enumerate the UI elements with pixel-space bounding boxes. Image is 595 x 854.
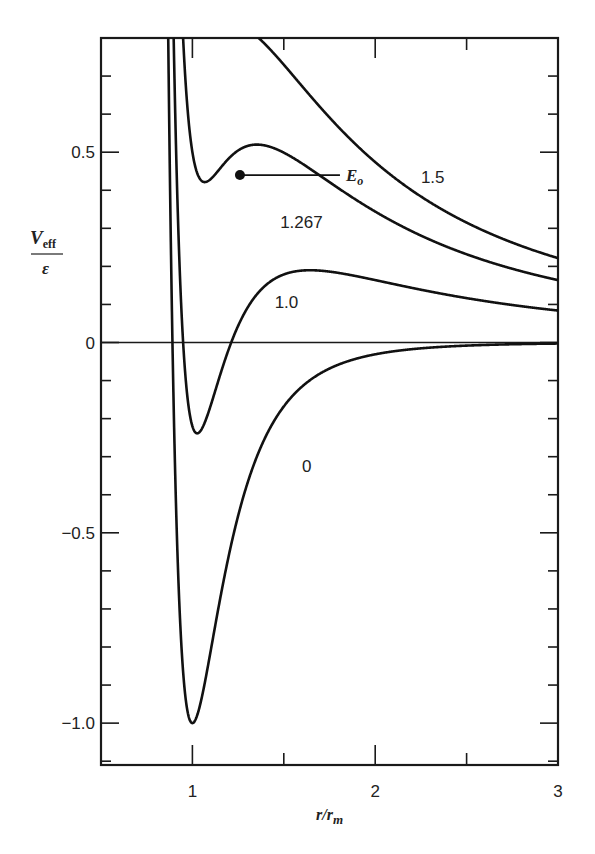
effective-potential-chart: 1230.50−0.5−1.0 01.01.2671.5 Veff ε r/rm… (0, 0, 595, 854)
curve-labels: 01.01.2671.5 (275, 168, 445, 476)
ylabel-denominator: ε (42, 259, 49, 278)
y-tick-label: −1.0 (61, 714, 95, 733)
y-tick-label: −0.5 (61, 524, 95, 543)
svg-text:Veff: Veff (30, 227, 57, 251)
curve-label: 1.267 (280, 213, 323, 232)
curve-label: 0 (302, 457, 311, 476)
x-tick-label: 1 (188, 782, 197, 801)
e0-label: Eo (345, 166, 363, 188)
curve-1-0 (171, 0, 558, 433)
y-axis-label: Veff ε (30, 227, 63, 278)
ylabel-sub: eff (43, 237, 57, 251)
xlabel-main: r/r (316, 806, 334, 823)
svg-text:r/rm: r/rm (316, 806, 343, 827)
x-tick-label: 2 (370, 782, 379, 801)
xlabel-sub: m (333, 812, 343, 827)
curve-label: 1.0 (275, 293, 299, 312)
curves (167, 0, 558, 723)
x-tick-label: 3 (553, 782, 562, 801)
y-tick-label: 0.5 (71, 143, 95, 162)
y-tick-label: 0 (86, 334, 95, 353)
axis-ticks: 1230.50−0.5−1.0 (61, 38, 562, 801)
curve-label: 1.5 (421, 168, 445, 187)
x-axis-label: r/rm (316, 806, 343, 827)
e0-point (235, 170, 245, 180)
